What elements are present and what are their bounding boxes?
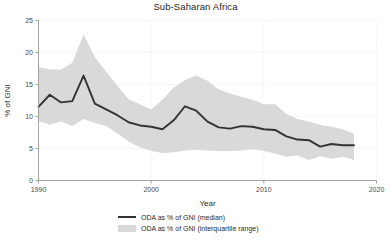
interquartile-range-band — [39, 35, 354, 160]
svg-text:25: 25 — [25, 17, 33, 24]
svg-text:% of GNI: % of GNI — [3, 84, 12, 116]
legend-label-median: ODA as % of GNI (median) — [141, 214, 225, 221]
legend-line-key — [118, 212, 136, 223]
legend-band-key — [118, 223, 136, 234]
svg-text:20: 20 — [25, 49, 33, 56]
svg-text:2020: 2020 — [369, 186, 385, 193]
chart-container: Sub-Saharan Africa 051015202519902000201… — [0, 0, 391, 244]
svg-text:5: 5 — [29, 145, 33, 152]
legend-item-iqr: ODA as % of GNI (interquartile range) — [118, 223, 318, 234]
chart-legend: ODA as % of GNI (median) ODA as % of GNI… — [118, 212, 318, 234]
svg-text:15: 15 — [25, 81, 33, 88]
svg-text:10: 10 — [25, 113, 33, 120]
svg-text:1990: 1990 — [31, 186, 47, 193]
plot-area: 05101520251990200020102020 Year% of GNI — [0, 0, 391, 244]
svg-text:2000: 2000 — [143, 186, 159, 193]
legend-item-median: ODA as % of GNI (median) — [118, 212, 318, 223]
svg-text:2010: 2010 — [256, 186, 272, 193]
legend-label-iqr: ODA as % of GNI (interquartile range) — [141, 225, 259, 232]
svg-text:0: 0 — [29, 177, 33, 184]
svg-text:Year: Year — [199, 199, 216, 208]
